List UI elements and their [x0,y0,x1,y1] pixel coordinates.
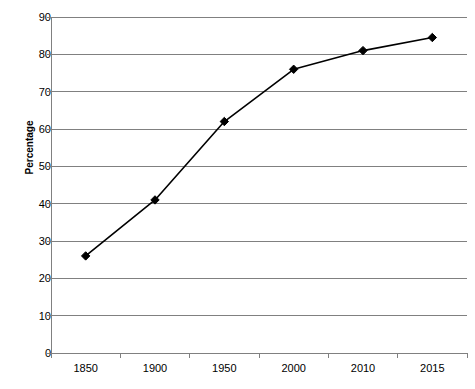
line-chart: Percentage 0102030405060708090 185019001… [0,0,475,389]
x-tick-label: 2000 [281,362,305,374]
gridlines [51,17,467,353]
x-axis-ticks [51,353,467,358]
axes [47,17,467,353]
x-tick-label: 1900 [143,362,167,374]
plot-area [0,0,475,389]
x-tick-label: 1950 [212,362,236,374]
data-point-marker [359,46,367,54]
x-tick-label: 2015 [420,362,444,374]
data-line [86,38,433,256]
series-line [86,38,433,256]
x-tick-label: 2010 [351,362,375,374]
x-tick-label: 1850 [73,362,97,374]
series-markers [81,33,436,260]
data-point-marker [428,33,436,41]
